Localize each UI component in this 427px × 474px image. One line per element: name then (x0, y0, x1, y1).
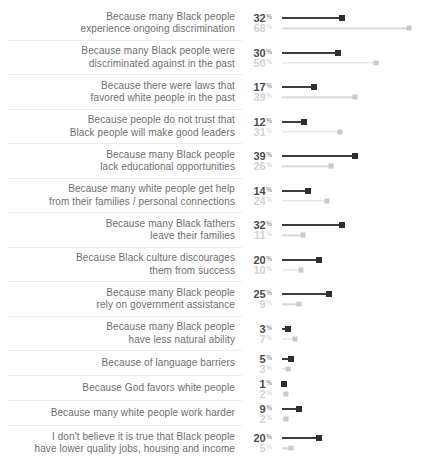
value-light: 9% (260, 299, 272, 309)
lollipop-marker (301, 119, 307, 125)
value-light: 50% (253, 58, 272, 68)
category-label: Because many white people get help from … (8, 183, 235, 208)
value-light: 2% (260, 389, 272, 399)
lollipop-dark (282, 151, 427, 161)
value-column: 39% 26% (242, 151, 272, 171)
value-light-number: 7 (260, 333, 266, 345)
lollipop-dark (282, 404, 427, 414)
category-label: Because many Black people have less natu… (8, 321, 235, 346)
dumbbell-chart: Because many Black people experience ong… (0, 0, 427, 474)
lollipop-line (282, 52, 338, 54)
percent-sign: % (266, 404, 272, 411)
lollipop-light (282, 196, 427, 206)
percent-sign: % (266, 196, 272, 203)
percent-sign: % (266, 23, 272, 30)
percent-sign: % (266, 289, 272, 296)
chart-row: Because many white people get help from … (0, 179, 427, 214)
chart-row: Because many Black people have less natu… (0, 317, 427, 352)
lollipop-line (282, 155, 355, 157)
lollipop-marker (296, 302, 301, 307)
percent-sign: % (266, 324, 272, 331)
percent-sign: % (266, 58, 272, 65)
lollipop-dark (282, 354, 427, 364)
value-column: 25% 9% (242, 289, 272, 309)
value-light-number: 39 (253, 91, 265, 103)
value-light-number: 2 (260, 388, 266, 400)
lollipop-light (282, 265, 427, 275)
chart-row: Because many Black people lack education… (0, 144, 427, 179)
value-column: 5% 3% (242, 354, 272, 374)
percent-sign: % (266, 354, 272, 361)
value-light-number: 50 (253, 57, 265, 69)
percent-sign: % (266, 13, 272, 20)
value-light: 11% (254, 230, 272, 240)
value-column: 12% 31% (242, 117, 272, 137)
lollipop-light (282, 334, 427, 344)
percent-sign: % (266, 255, 272, 262)
lollipop-marker (316, 435, 322, 441)
lollipop-light (282, 127, 427, 137)
lollipop-line (282, 17, 342, 19)
lollipop-marker (326, 291, 332, 297)
lollipop-light (282, 389, 427, 399)
percent-sign: % (266, 48, 272, 55)
percent-sign: % (266, 151, 272, 158)
percent-sign: % (266, 92, 272, 99)
chart-row: Because God favors white people 1% 2% (0, 376, 427, 401)
lollipop-light (282, 161, 427, 171)
percent-sign: % (266, 443, 272, 450)
category-label: Because God favors white people (8, 382, 235, 395)
lollipop-plot (282, 117, 427, 137)
lollipop-plot (282, 255, 427, 275)
lollipop-marker (285, 366, 290, 371)
lollipop-marker (283, 391, 288, 396)
lollipop-line (282, 293, 329, 295)
value-column: 17% 39% (242, 82, 272, 102)
lollipop-marker (352, 95, 357, 100)
chart-row: I don't believe it is true that Black pe… (0, 426, 427, 461)
percent-sign: % (266, 379, 272, 386)
lollipop-dark (282, 379, 427, 389)
lollipop-marker (288, 356, 294, 362)
value-light: 68% (253, 23, 272, 33)
value-light: 39% (253, 92, 272, 102)
category-label: Because Black culture discourages them f… (8, 252, 235, 277)
lollipop-line (282, 97, 355, 98)
percent-sign: % (266, 230, 272, 237)
lollipop-marker (289, 446, 294, 451)
lollipop-marker (283, 416, 288, 421)
chart-row: Because many Black people rely on govern… (0, 282, 427, 317)
lollipop-marker (316, 257, 322, 263)
chart-row: Because there were laws that favored whi… (0, 75, 427, 110)
lollipop-dark (282, 324, 427, 334)
chart-row: Because many white people work harder 9%… (0, 401, 427, 426)
value-column: 20% 10% (242, 255, 272, 275)
lollipop-plot (282, 324, 427, 344)
lollipop-light (282, 364, 427, 374)
value-light: 26% (253, 161, 272, 171)
lollipop-dark (282, 186, 427, 196)
category-label: Because many Black people were discrimin… (8, 45, 235, 70)
lollipop-plot (282, 13, 427, 33)
value-column: 30% 50% (242, 48, 272, 68)
lollipop-plot (282, 354, 427, 374)
percent-sign: % (266, 299, 272, 306)
value-light-number: 24 (253, 195, 265, 207)
lollipop-line (282, 200, 327, 201)
value-light-number: 26 (253, 160, 265, 172)
chart-row: Because many Black people were discrimin… (0, 41, 427, 76)
value-light-number: 3 (260, 363, 266, 375)
category-label: Because many white people work harder (8, 407, 235, 420)
lollipop-line (282, 166, 331, 167)
lollipop-line (282, 437, 319, 439)
value-column: 14% 24% (242, 186, 272, 206)
lollipop-marker (337, 129, 342, 134)
percent-sign: % (266, 364, 272, 371)
value-light-number: 68 (253, 22, 265, 34)
chart-row: Because people do not trust that Black p… (0, 110, 427, 145)
lollipop-light (282, 23, 427, 33)
lollipop-line (282, 62, 376, 63)
lollipop-light (282, 92, 427, 102)
lollipop-plot (282, 433, 427, 453)
lollipop-marker (296, 406, 302, 412)
